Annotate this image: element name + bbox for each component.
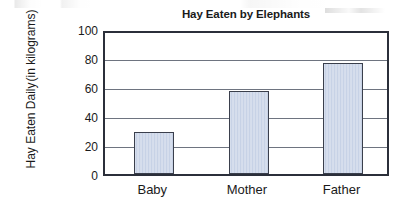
x-tick-label-father: Father	[294, 182, 389, 198]
bar-slot-father	[296, 33, 391, 174]
y-axis-tick-labels: 100 80 60 40 20 0	[62, 31, 98, 176]
y-axis-title-line-2: (in kilograms)	[24, 9, 38, 81]
bar-father	[323, 63, 363, 174]
bar-mother	[229, 91, 269, 174]
x-tick-label-mother: Mother	[200, 182, 295, 198]
bars-group	[107, 33, 385, 174]
y-axis-title: Hay Eaten Daily (in kilograms)	[12, 19, 50, 159]
y-tick-label-40: 40	[64, 112, 98, 124]
bar-slot-baby	[107, 33, 202, 174]
chart-title: Hay Eaten by Elephants	[103, 8, 389, 20]
bar-slot-mother	[202, 33, 297, 174]
bar-baby	[134, 132, 174, 174]
y-axis-title-line-1: Hay Eaten Daily	[24, 82, 38, 168]
y-tick-label-100: 100	[64, 25, 98, 37]
y-tick-label-60: 60	[64, 83, 98, 95]
y-tick-label-0: 0	[64, 170, 98, 182]
x-axis-tick-labels: Baby Mother Father	[105, 182, 387, 204]
plot-area	[103, 31, 389, 176]
x-tick-label-baby: Baby	[105, 182, 200, 198]
y-tick-label-80: 80	[64, 54, 98, 66]
y-tick-label-20: 20	[64, 141, 98, 153]
bar-chart-figure: Hay Eaten by Elephants Hay Eaten Daily (…	[0, 0, 403, 223]
scan-artifact-top	[0, 0, 403, 8]
